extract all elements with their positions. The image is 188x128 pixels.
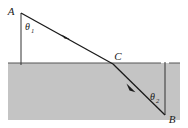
label-theta1: θ 1 — [25, 21, 34, 34]
label-point-a: A — [7, 5, 15, 17]
label-point-b: B — [169, 113, 176, 125]
label-theta1-symbol: θ — [25, 21, 30, 32]
label-point-c: C — [114, 50, 122, 62]
ray-diagram-figure: A θ 1 C θ 2 B — [0, 0, 188, 128]
ray-diagram-canvas: A θ 1 C θ 2 B — [0, 0, 188, 128]
label-theta2-symbol: θ — [150, 91, 155, 102]
label-theta1-subscript: 1 — [31, 27, 34, 34]
